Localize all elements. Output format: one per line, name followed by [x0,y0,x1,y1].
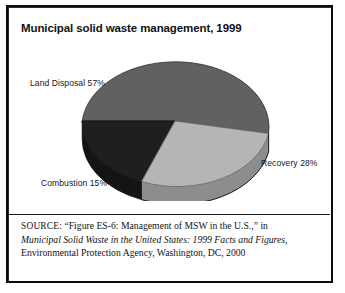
figure-frame: Municipal solid waste management, 1999 L… [6,5,333,283]
source-line-1-text: “Figure ES-6: Management of MSW in the U… [62,220,268,231]
source-note: SOURCE: “Figure ES-6: Management of MSW … [21,219,321,260]
source-line-2: Municipal Solid Waste in the United Stat… [21,233,321,246]
pie-chart-plot-area: Land Disposal 57% Recovery 28% Combustio… [8,37,331,212]
page-title: Municipal solid waste management, 1999 [21,22,242,34]
pie-label-land-disposal: Land Disposal 57% [30,78,105,88]
source-line-1: SOURCE: “Figure ES-6: Management of MSW … [21,219,321,233]
pie-label-combustion: Combustion 15% [41,178,107,188]
source-label: SOURCE: [21,221,62,231]
source-divider [9,214,330,215]
pie-label-recovery: Recovery 28% [261,158,318,168]
source-line-3: Environmental Protection Agency, Washing… [21,246,321,259]
pie-chart-graphic [80,53,272,201]
